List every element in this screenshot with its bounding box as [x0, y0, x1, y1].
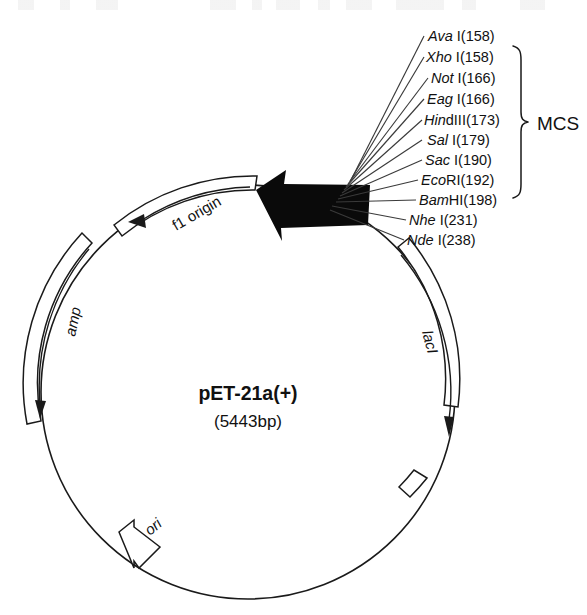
- mcs-bracket-group: MCS: [513, 46, 579, 198]
- lacI-label: lacI: [419, 328, 441, 355]
- site-label-nde: Nde I(238): [407, 232, 476, 248]
- feature-lacI: lacI: [398, 238, 460, 497]
- site-label-sac: Sac I(190): [425, 152, 492, 168]
- lacI-segment-box: [399, 470, 427, 497]
- plasmid-diagram: f1 origin amp lacI ori: [0, 0, 587, 615]
- mcs-label: MCS: [537, 113, 579, 134]
- plasmid-map-figure: f1 origin amp lacI ori: [0, 0, 587, 615]
- mcs-arrow-shape: [256, 170, 370, 241]
- site-label-sal: Sal I(179): [427, 132, 490, 148]
- site-label-ecori: EcoRI(192): [421, 172, 494, 188]
- amp-label: amp: [61, 306, 84, 338]
- leader-line-sal: [342, 140, 422, 193]
- site-label-ava: Ava I(158): [427, 28, 495, 44]
- site-label-not: Not I(166): [431, 70, 496, 86]
- feature-f1-origin: f1 origin: [114, 176, 257, 236]
- site-label-bamhi: BamHI(198): [419, 192, 497, 208]
- leader-line-hindiii: [344, 120, 422, 190]
- amp-box: [23, 233, 92, 424]
- site-label-xho: Xho I(158): [425, 49, 494, 65]
- plasmid-size-label: (5443bp): [214, 412, 282, 431]
- mcs-curly-bracket: [513, 46, 528, 198]
- site-label-hindiii: HindIII(173): [424, 112, 500, 128]
- leader-line-xho: [350, 57, 424, 181]
- site-label-eag: Eag I(166): [427, 91, 495, 107]
- leader-line-ava: [352, 36, 424, 178]
- plasmid-center-labels: pET-21a(+) (5443bp): [198, 382, 297, 431]
- leader-line-not: [348, 78, 428, 184]
- site-label-nhe: Nhe I(231): [409, 212, 478, 228]
- mcs-black-arrow: [256, 170, 370, 241]
- feature-amp: amp: [23, 233, 92, 424]
- restriction-site-labels: Ava I(158) Xho I(158) Not I(166) Eag I(1…: [407, 28, 500, 248]
- plasmid-name-label: pET-21a(+): [198, 382, 297, 404]
